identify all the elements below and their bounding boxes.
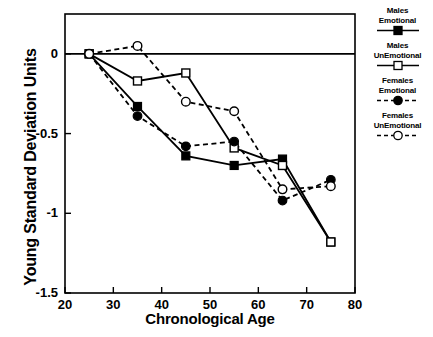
legend-label-line1-0: Males — [362, 6, 433, 16]
legend-entry-3: FemalesUnEmotional — [362, 111, 433, 141]
series-2-point-3 — [230, 137, 239, 146]
chart-legend: MalesEmotionalMalesUnEmotionalFemalesEmo… — [362, 6, 433, 146]
legend-marker-sample-1 — [362, 60, 433, 71]
legend-marker-sample-2 — [362, 95, 433, 106]
legend-label-line1-2: Females — [362, 76, 433, 86]
x-axis-title: Chronological Age — [65, 310, 355, 327]
series-1-point-4 — [279, 161, 287, 169]
series-2-point-1 — [133, 112, 142, 121]
legend-label-line1-1: Males — [362, 41, 433, 51]
legend-marker-sample-3 — [362, 130, 433, 141]
legend-entry-1: MalesUnEmotional — [362, 41, 433, 71]
legend-entry-2: FemalesEmotional — [362, 76, 433, 106]
y-axis-title: Young Standard Deviation Units — [22, 42, 40, 292]
series-3-point-1 — [133, 42, 142, 51]
x-tick-label-6: 80 — [335, 297, 375, 312]
series-3-point-2 — [182, 97, 191, 106]
legend-entry-0: MalesEmotional — [362, 6, 433, 36]
legend-label-line2-3: UnEmotional — [362, 121, 433, 131]
series-line-3 — [89, 46, 331, 189]
y-tick-label-1: -0.5 — [10, 126, 58, 141]
y-tick-label-2: -1 — [10, 205, 58, 220]
x-tick-label-3: 50 — [190, 297, 230, 312]
series-1-point-1 — [134, 77, 142, 85]
x-tick-label-5: 70 — [287, 297, 327, 312]
series-line-1 — [89, 54, 331, 242]
legend-marker-sample-0 — [362, 25, 433, 36]
series-0-point-2 — [182, 152, 190, 160]
legend-label-line1-3: Females — [362, 111, 433, 121]
x-tick-label-2: 40 — [142, 297, 182, 312]
series-0-point-3 — [230, 161, 238, 169]
y-tick-label-0: 0 — [10, 46, 58, 61]
legend-label-line2-1: UnEmotional — [362, 51, 433, 61]
series-1-point-5 — [327, 238, 335, 246]
x-tick-label-4: 60 — [238, 297, 278, 312]
x-tick-label-0: 20 — [45, 297, 85, 312]
series-3-point-3 — [230, 107, 239, 116]
series-2-point-2 — [182, 142, 191, 151]
series-2-point-4 — [278, 196, 287, 205]
series-3-point-5 — [327, 182, 336, 191]
series-0-point-1 — [134, 102, 142, 110]
x-tick-label-1: 30 — [93, 297, 133, 312]
series-3-point-0 — [85, 50, 94, 59]
series-1-point-2 — [182, 69, 190, 77]
chart-figure: Young Standard Deviation Units Chronolog… — [0, 0, 433, 337]
series-3-point-4 — [278, 185, 287, 194]
series-line-0 — [89, 54, 331, 242]
legend-label-line2-2: Emotional — [362, 86, 433, 96]
plot-frame — [65, 14, 355, 293]
legend-label-line2-0: Emotional — [362, 16, 433, 26]
